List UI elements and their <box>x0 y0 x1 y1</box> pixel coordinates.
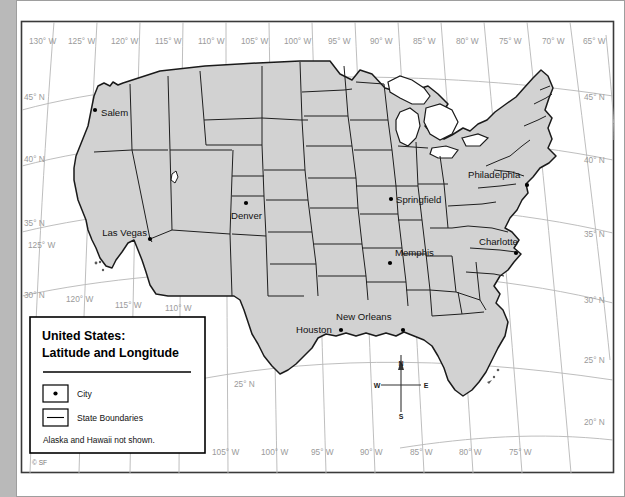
lon-label-top: 70° W <box>542 36 565 46</box>
city-label: Denver <box>231 210 263 221</box>
city-dot <box>148 237 152 241</box>
lon-label-top: 130° W <box>29 36 56 46</box>
lat-label-left: 30° N <box>24 290 45 300</box>
lon-label-top: 85° W <box>413 36 436 46</box>
lon-label-left-inner: 125° W <box>28 240 55 250</box>
city-label: Springfield <box>396 194 441 205</box>
lat-label-inner: 25° N <box>234 379 255 389</box>
lat-label-left: 35° N <box>24 218 45 228</box>
page-gutter <box>0 0 16 497</box>
city-label: Charlotte <box>479 236 518 247</box>
island-marker <box>99 261 101 263</box>
lat-label-right: 45° N <box>584 92 605 102</box>
lat-label-right: 35° N <box>584 229 605 239</box>
lat-label-right: 25° N <box>584 355 605 365</box>
lon-label-bottom: 80° W <box>459 447 482 457</box>
lon-label-top: 125° W <box>68 36 95 46</box>
city-dot <box>388 261 392 265</box>
lon-label-top: 75° W <box>499 36 522 46</box>
city-dot <box>244 201 248 205</box>
legend-city-label: City <box>77 389 93 399</box>
city-dot <box>514 251 518 255</box>
lon-label-top: 120° W <box>111 36 138 46</box>
city-label: Memphis <box>395 247 434 258</box>
lon-label-bottom: 110° W <box>165 303 192 313</box>
island-marker <box>102 269 104 271</box>
compass-north-label: N <box>398 360 403 367</box>
compass-east-label: E <box>424 382 429 389</box>
city-springfield[interactable]: Springfield <box>389 194 441 205</box>
lat-label-right: 20° N <box>584 417 605 427</box>
legend-title-line2: Latitude and Longitude <box>42 346 179 360</box>
lon-label-bottom: 120° W <box>66 294 93 304</box>
lon-label-top: 90° W <box>370 36 393 46</box>
copyright-notice: © SF <box>32 459 47 466</box>
map-figure: 130° W 125° W 120° W 115° W 110° W 105° … <box>0 0 625 497</box>
city-label: Philadelphia <box>468 169 521 180</box>
lat-label-left: 40° N <box>24 154 45 164</box>
city-label: New Orleans <box>336 311 392 322</box>
map-legend: United States: Latitude and Longitude Ci… <box>30 317 205 466</box>
legend-title-line1: United States: <box>42 329 125 343</box>
lon-label-bottom: 85° W <box>410 447 433 457</box>
lat-label-left: 45° N <box>24 92 45 102</box>
city-dot-icon <box>53 391 57 395</box>
lon-label-top: 100° W <box>284 36 311 46</box>
city-label: Houston <box>296 324 332 335</box>
city-dot <box>93 108 97 112</box>
lat-label-right: 30° N <box>584 295 605 305</box>
compass-south-label: S <box>399 413 404 420</box>
legend-boundaries-label: State Boundaries <box>77 413 143 423</box>
compass-west-label: W <box>374 382 381 389</box>
island-marker <box>493 376 495 378</box>
map-canvas: 130° W 125° W 120° W 115° W 110° W 105° … <box>0 0 625 497</box>
lon-label-bottom: 100° W <box>261 447 288 457</box>
lon-label-bottom: 95° W <box>311 447 334 457</box>
lon-label-bottom: 105° W <box>212 447 239 457</box>
city-dot <box>401 328 405 332</box>
city-dot <box>389 197 393 201</box>
lon-label-bottom: 115° W <box>115 300 142 310</box>
lon-label-top: 105° W <box>241 36 268 46</box>
lon-label-top: 115° W <box>155 36 182 46</box>
city-label: Salem <box>101 107 128 118</box>
lat-label-right: 40° N <box>584 155 605 165</box>
lon-label-bottom: 90° W <box>360 447 383 457</box>
city-dot <box>339 328 343 332</box>
lon-label-top: 80° W <box>456 36 479 46</box>
legend-note: Alaska and Hawaii not shown. <box>43 435 155 445</box>
city-dot <box>525 183 529 187</box>
lon-label-top: 110° W <box>198 36 225 46</box>
lon-label-top: 65° W <box>583 36 606 46</box>
city-label: Las Vegas <box>102 227 147 238</box>
lon-label-top: 95° W <box>328 36 351 46</box>
island-marker <box>497 369 500 372</box>
lon-label-bottom: 75° W <box>509 447 532 457</box>
island-marker <box>95 262 98 265</box>
